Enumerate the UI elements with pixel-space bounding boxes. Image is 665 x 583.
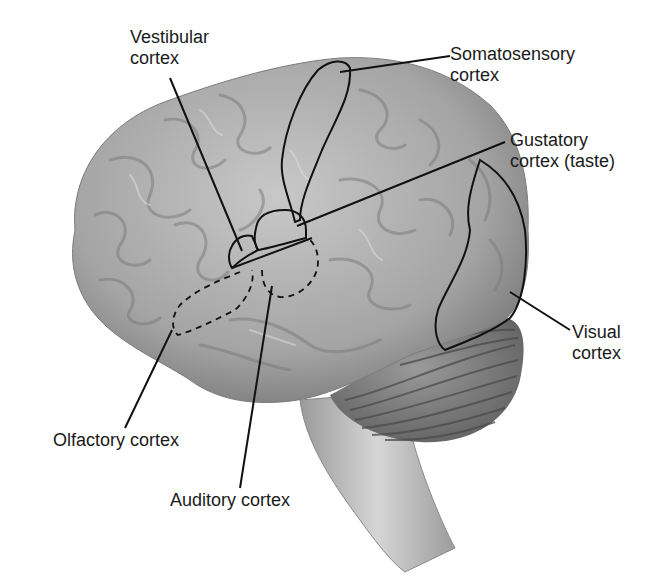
label-line: cortex [130, 48, 209, 69]
label-line: cortex (taste) [510, 151, 615, 172]
brain-illustration [0, 0, 665, 583]
label-line: cortex [450, 65, 575, 86]
label-visual-cortex: Visual cortex [572, 322, 621, 364]
label-line: Vestibular [130, 27, 209, 48]
label-line: Somatosensory [450, 44, 575, 65]
brain-diagram: Vestibular cortex Somatosensory cortex G… [0, 0, 665, 583]
label-auditory-cortex: Auditory cortex [170, 490, 290, 511]
label-line: Olfactory cortex [53, 430, 179, 451]
label-line: cortex [572, 343, 621, 364]
label-gustatory-cortex: Gustatory cortex (taste) [510, 130, 615, 172]
leader-visual [510, 292, 570, 330]
label-line: Visual [572, 322, 621, 343]
label-line: Gustatory [510, 130, 615, 151]
label-somatosensory-cortex: Somatosensory cortex [450, 44, 575, 86]
label-line: Auditory cortex [170, 490, 290, 511]
label-vestibular-cortex: Vestibular cortex [130, 27, 209, 69]
label-olfactory-cortex: Olfactory cortex [53, 430, 179, 451]
